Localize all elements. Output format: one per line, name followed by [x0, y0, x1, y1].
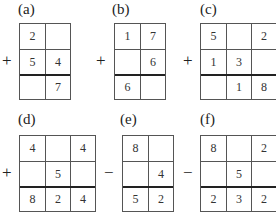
minus-operator: − — [183, 164, 193, 181]
digit-cell: 1 — [115, 24, 140, 49]
result-row: 7 — [20, 74, 70, 99]
result-row: 6 — [115, 74, 165, 99]
digit-cell: 4 — [70, 136, 95, 161]
puzzle-label: (c) — [200, 2, 217, 17]
digit-cell: 7 — [140, 24, 165, 49]
puzzle-label: (d) — [18, 112, 36, 127]
digit-cell — [20, 162, 45, 186]
digit-cell: 2 — [201, 188, 226, 211]
digit-cell: 5 — [123, 188, 148, 211]
operand-row: 44 — [20, 136, 95, 161]
digit-grid: 8452 — [122, 135, 174, 212]
digit-cell: 5 — [45, 162, 70, 186]
operand-row: 5 — [20, 161, 95, 186]
operand-row: 4 — [123, 161, 173, 186]
digit-cell: 6 — [115, 76, 140, 99]
digit-cell: 5 — [226, 162, 251, 186]
digit-cell: 8 — [251, 76, 276, 99]
digit-cell: 8 — [123, 136, 148, 161]
digit-cell: 4 — [20, 136, 45, 161]
digit-cell: 6 — [140, 50, 165, 74]
digit-cell — [201, 162, 226, 186]
digit-cell — [226, 136, 251, 161]
operand-row: 82 — [201, 136, 276, 161]
digit-cell — [201, 76, 226, 99]
digit-cell — [45, 24, 70, 49]
digit-cell: 5 — [201, 24, 226, 49]
operand-row: 54 — [20, 49, 70, 74]
digit-cell: 2 — [251, 188, 276, 211]
puzzle-label: (a) — [18, 2, 35, 17]
digit-cell — [226, 24, 251, 49]
digit-cell: 2 — [148, 188, 173, 211]
result-row: 52 — [123, 186, 173, 211]
digit-grid: 521318 — [200, 23, 276, 100]
puzzle-label: (f) — [200, 112, 215, 127]
operand-row: 17 — [115, 24, 165, 49]
plus-operator: + — [183, 52, 193, 69]
digit-cell: 3 — [226, 50, 251, 74]
digit-cell: 8 — [20, 188, 45, 211]
operand-row: 5 — [201, 161, 276, 186]
digit-cell: 1 — [201, 50, 226, 74]
digit-cell: 3 — [226, 188, 251, 211]
digit-cell: 2 — [251, 136, 276, 161]
result-row: 232 — [201, 186, 276, 211]
minus-operator: − — [104, 164, 114, 181]
digit-cell — [251, 162, 276, 186]
digit-grid: 825232 — [200, 135, 276, 212]
digit-cell — [140, 76, 165, 99]
digit-cell: 5 — [20, 50, 45, 74]
puzzle-label: (e) — [120, 112, 137, 127]
digit-cell — [70, 162, 95, 186]
operand-row: 8 — [123, 136, 173, 161]
digit-cell: 7 — [45, 76, 70, 99]
digit-cell — [251, 50, 276, 74]
digit-cell — [20, 76, 45, 99]
digit-grid: 2547 — [19, 23, 71, 100]
digit-cell — [148, 136, 173, 161]
result-row: 824 — [20, 186, 95, 211]
digit-cell — [45, 136, 70, 161]
digit-cell: 1 — [226, 76, 251, 99]
operand-row: 13 — [201, 49, 276, 74]
digit-grid: 1766 — [114, 23, 166, 100]
operand-row: 2 — [20, 24, 70, 49]
digit-cell: 2 — [251, 24, 276, 49]
digit-cell: 2 — [20, 24, 45, 49]
digit-cell: 4 — [148, 162, 173, 186]
plus-operator: + — [2, 164, 12, 181]
operand-row: 52 — [201, 24, 276, 49]
plus-operator: + — [2, 52, 12, 69]
digit-cell: 4 — [45, 50, 70, 74]
digit-cell: 4 — [70, 188, 95, 211]
puzzle-label: (b) — [112, 2, 130, 17]
plus-operator: + — [96, 52, 106, 69]
digit-grid: 445824 — [19, 135, 96, 212]
digit-cell: 2 — [45, 188, 70, 211]
result-row: 18 — [201, 74, 276, 99]
digit-cell — [123, 162, 148, 186]
digit-cell — [115, 50, 140, 74]
digit-cell: 8 — [201, 136, 226, 161]
operand-row: 6 — [115, 49, 165, 74]
